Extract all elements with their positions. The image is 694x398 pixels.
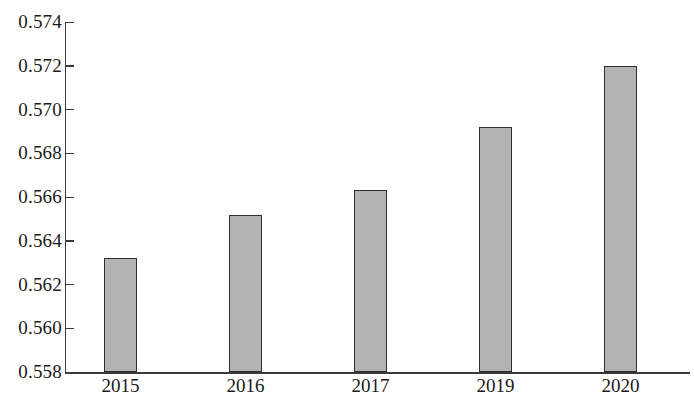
- y-axis-tick-label: 0.570: [4, 100, 62, 119]
- y-axis-tick-label: 0.572: [4, 56, 62, 75]
- y-axis-tick-label: 0.558: [4, 362, 62, 381]
- bar-2015: [104, 258, 137, 372]
- y-axis-tick-label: 0.560: [4, 318, 62, 337]
- bar-chart: 0.5740.5720.5700.5680.5660.5640.5620.560…: [0, 0, 694, 398]
- y-axis-tick-label: 0.562: [4, 275, 62, 294]
- y-axis-tick-label: 0.574: [4, 12, 62, 31]
- y-axis-tick-label: 0.564: [4, 231, 62, 250]
- x-axis-tick-label: 2016: [206, 376, 286, 397]
- x-axis-tick-label: 2017: [331, 376, 411, 397]
- x-axis-tick-label: 2015: [81, 376, 161, 397]
- bar-2016: [229, 215, 262, 373]
- y-axis-tick-label: 0.566: [4, 187, 62, 206]
- bar-2020: [604, 66, 637, 372]
- x-axis-line: [65, 372, 690, 374]
- plot-area: [65, 22, 690, 372]
- bar-2019: [479, 127, 512, 372]
- x-axis-tick-label: 2019: [456, 376, 536, 397]
- bar-2017: [354, 190, 387, 372]
- y-axis-tick-label: 0.568: [4, 143, 62, 162]
- x-axis-tick-label: 2020: [581, 376, 661, 397]
